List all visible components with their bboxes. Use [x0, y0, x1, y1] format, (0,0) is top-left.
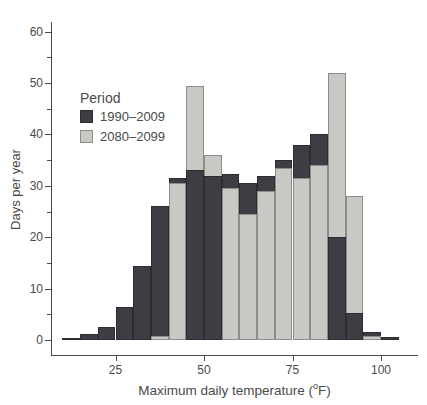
bar-1990-2009-bin-85	[328, 237, 346, 340]
x-tick-label-25: 25	[96, 363, 136, 377]
bar-1990-2009-bin-15	[80, 334, 98, 340]
y-tick-label-30: 30	[13, 180, 43, 192]
y-minor-tick-45	[47, 109, 51, 110]
legend-label: 1990–2009	[100, 110, 165, 124]
y-tick-0	[45, 340, 51, 341]
x-axis-title: Maximum daily temperature (oF)	[62, 381, 407, 398]
x-tick-label-100: 100	[361, 363, 401, 377]
y-minor-tick-5	[47, 314, 51, 315]
y-minor-tick-25	[47, 212, 51, 213]
x-tick-75	[293, 356, 294, 361]
y-tick-label-60: 60	[13, 26, 43, 38]
bar-2080-2099-bin-95	[363, 336, 381, 340]
legend-entry-2080-2099: 2080–2099	[80, 130, 165, 144]
y-minor-tick-55	[47, 57, 51, 58]
y-tick-60	[45, 32, 51, 33]
bar-1990-2009-bin-45	[186, 170, 204, 340]
bar-1990-2009-bin-10	[62, 338, 80, 340]
y-tick-30	[45, 186, 51, 187]
y-minor-tick-35	[47, 160, 51, 161]
y-tick-label-50: 50	[13, 77, 43, 89]
y-tick-label-40: 40	[13, 128, 43, 140]
histogram-figure: Days per year 0102030405060 255075100 Pe…	[0, 0, 427, 405]
bar-2080-2099-bin-65	[257, 191, 275, 340]
bar-2080-2099-bin-60	[239, 214, 257, 340]
x-tick-label-50: 50	[184, 363, 224, 377]
bar-2080-2099-bin-40	[169, 183, 187, 340]
y-tick-label-10: 10	[13, 283, 43, 295]
bar-1990-2009-bin-25	[116, 307, 134, 340]
bar-2080-2099-bin-35	[151, 336, 169, 340]
bar-2080-2099-bin-70	[275, 168, 293, 340]
x-axis-line	[51, 355, 418, 356]
bar-1990-2009-bin-30	[133, 266, 151, 340]
y-tick-label-20: 20	[13, 231, 43, 243]
bar-2080-2099-bin-75	[293, 178, 311, 340]
y-axis-line	[51, 22, 52, 356]
x-tick-label-75: 75	[273, 363, 313, 377]
legend-entry-1990-2009: 1990–2009	[80, 110, 165, 124]
x-tick-25	[116, 356, 117, 361]
legend-title: Period	[80, 90, 120, 106]
bar-1990-2009-bin-50	[204, 176, 222, 340]
legend-swatch-dark	[80, 110, 93, 123]
bar-2080-2099-bin-80	[310, 165, 328, 340]
legend-label: 2080–2099	[100, 130, 165, 144]
x-tick-100	[381, 356, 382, 361]
legend-swatch-light	[80, 130, 93, 143]
x-tick-50	[204, 356, 205, 361]
y-tick-20	[45, 237, 51, 238]
bar-2080-2099-bin-55	[222, 188, 240, 340]
bar-1990-2009-bin-20	[98, 327, 116, 340]
bar-1990-2009-bin-90	[346, 313, 364, 340]
y-tick-50	[45, 83, 51, 84]
bar-1990-2009-bin-100	[381, 337, 399, 340]
y-minor-tick-15	[47, 263, 51, 264]
bar-1990-2009-bin-35	[151, 206, 169, 340]
y-tick-40	[45, 134, 51, 135]
y-tick-10	[45, 289, 51, 290]
y-tick-label-0: 0	[13, 334, 43, 346]
